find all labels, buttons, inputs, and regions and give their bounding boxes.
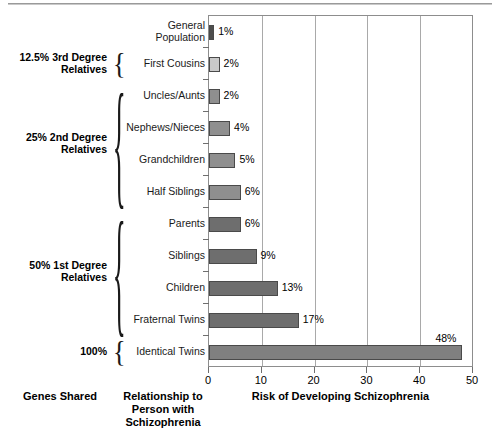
x-axis-tick xyxy=(366,367,367,373)
group-label: 25% 2nd Degree Relatives xyxy=(0,131,135,156)
bar-value-label: 4% xyxy=(234,122,249,133)
x-axis-tick-label: 30 xyxy=(360,374,372,386)
bar-value-label: 5% xyxy=(239,154,254,165)
bar xyxy=(209,25,214,40)
bar-value-label: 6% xyxy=(245,218,260,229)
bar-value-label: 13% xyxy=(282,282,303,293)
chart-figure: 1%2%2%4%5%6%6%9%13%17%48% General Popula… xyxy=(0,0,494,435)
x-axis-tick xyxy=(419,367,420,373)
gridline xyxy=(367,16,368,366)
bar-value-label: 9% xyxy=(261,250,276,261)
bar-value-label: 48% xyxy=(435,333,456,344)
x-axis-tick-label: 10 xyxy=(255,374,267,386)
x-axis-tick-label: 0 xyxy=(205,374,211,386)
bar-value-label: 2% xyxy=(224,90,239,101)
bar xyxy=(209,281,278,296)
group-label: 100% xyxy=(0,345,135,358)
bar xyxy=(209,121,230,136)
x-axis-tick xyxy=(314,367,315,373)
bar xyxy=(209,313,299,328)
genes-shared-title: Genes Shared xyxy=(10,390,110,403)
bar xyxy=(209,217,241,232)
x-axis-tick xyxy=(261,367,262,373)
y-axis-title: Relationship to Person with Schizophreni… xyxy=(103,390,223,429)
bar xyxy=(209,57,220,72)
x-axis-tick xyxy=(472,367,473,373)
bar xyxy=(209,249,257,264)
bar xyxy=(209,345,462,360)
gene-group-column: {12.5% 3rd Degree Relatives{25% 2nd Degr… xyxy=(0,0,135,370)
x-axis-title: Risk of Developing Schizophrenia xyxy=(218,390,463,403)
bar-value-label: 17% xyxy=(303,314,324,325)
bar xyxy=(209,89,220,104)
gridline xyxy=(420,16,421,366)
bar-value-label: 6% xyxy=(245,186,260,197)
bar-value-label: 2% xyxy=(224,58,239,69)
x-axis-tick-label: 20 xyxy=(307,374,319,386)
x-axis-tick xyxy=(208,367,209,373)
bar xyxy=(209,185,241,200)
x-axis-tick-label: 40 xyxy=(413,374,425,386)
bar-value-label: 1% xyxy=(218,26,233,37)
group-label: 50% 1st Degree Relatives xyxy=(0,259,135,284)
bar xyxy=(209,153,235,168)
x-axis-tick-label: 50 xyxy=(466,374,478,386)
